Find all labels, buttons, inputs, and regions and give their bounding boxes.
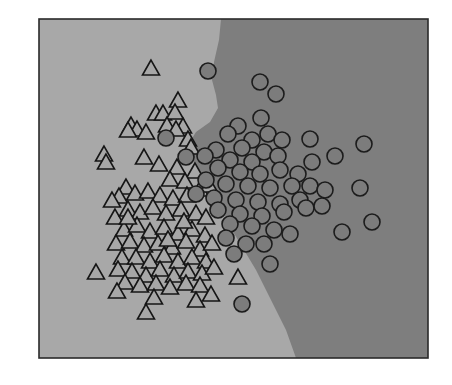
circle-marker — [262, 256, 278, 272]
circle-marker — [302, 131, 318, 147]
circle-marker — [218, 176, 234, 192]
circle-marker — [252, 74, 268, 90]
circle-marker — [178, 149, 194, 165]
circle-marker — [240, 178, 256, 194]
circle-marker — [298, 200, 314, 216]
circle-marker — [158, 130, 174, 146]
circle-marker — [200, 63, 216, 79]
circle-marker — [364, 214, 380, 230]
circle-marker — [256, 236, 272, 252]
circle-marker — [304, 154, 320, 170]
decision-boundary-plot — [0, 0, 452, 385]
circle-marker — [327, 148, 343, 164]
circle-marker — [262, 180, 278, 196]
circle-marker — [226, 246, 242, 262]
circle-marker — [210, 202, 226, 218]
circle-marker — [266, 222, 282, 238]
circle-marker — [234, 296, 250, 312]
circle-marker — [244, 218, 260, 234]
circle-marker — [334, 224, 350, 240]
circle-marker — [274, 132, 290, 148]
circle-marker — [282, 226, 298, 242]
circle-marker — [276, 204, 292, 220]
circle-marker — [356, 136, 372, 152]
circle-marker — [210, 160, 226, 176]
circle-marker — [314, 198, 330, 214]
circle-marker — [272, 162, 288, 178]
circle-marker — [220, 126, 236, 142]
circle-marker — [352, 180, 368, 196]
scatter-figure — [0, 0, 452, 385]
circle-marker — [268, 86, 284, 102]
circle-marker — [197, 148, 213, 164]
circle-marker — [302, 178, 318, 194]
circle-marker — [317, 182, 333, 198]
circle-marker — [218, 230, 234, 246]
circle-marker — [188, 186, 204, 202]
circle-marker — [198, 172, 214, 188]
circle-marker — [252, 166, 268, 182]
circle-marker — [253, 110, 269, 126]
circle-marker — [234, 140, 250, 156]
